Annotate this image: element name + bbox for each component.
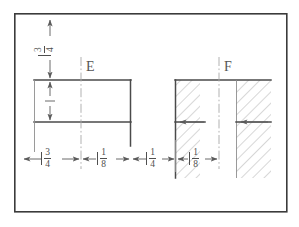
fraction-denominator: 4 bbox=[45, 46, 55, 53]
dim-tick bbox=[38, 55, 51, 56]
dimension-text-1-4: 1 4 bbox=[146, 148, 156, 169]
dim-tick bbox=[41, 152, 42, 165]
dimension-text-1-8-left: 1 8 bbox=[97, 148, 107, 169]
left-open-rectangle bbox=[34, 80, 131, 146]
fraction-denominator: 4 bbox=[44, 159, 51, 169]
technical-drawing: E F 3 4 3 4 bbox=[0, 0, 299, 227]
dim-tick bbox=[146, 152, 147, 165]
fraction-3-4-vertical: 3 4 bbox=[34, 46, 55, 53]
dim-tick bbox=[189, 152, 190, 165]
fraction-3-4: 3 4 bbox=[44, 148, 51, 169]
part-label-f: F bbox=[224, 60, 232, 74]
fraction-numerator: 3 bbox=[44, 148, 51, 158]
fraction-denominator: 4 bbox=[149, 159, 156, 169]
fraction-1-8-left: 1 8 bbox=[100, 148, 107, 169]
fraction-denominator: 8 bbox=[192, 159, 199, 169]
fraction-1-8-right: 1 8 bbox=[192, 148, 199, 169]
fraction-numerator: 1 bbox=[100, 148, 107, 158]
vertical-dimension-3-4: 3 4 bbox=[34, 46, 55, 56]
hatch-block-b bbox=[236, 80, 271, 178]
fraction-numerator: 1 bbox=[149, 148, 156, 158]
drawing-canvas bbox=[0, 0, 299, 227]
part-label-e: E bbox=[86, 60, 95, 74]
fraction-denominator: 8 bbox=[100, 159, 107, 169]
left-inner-vertical-dimension bbox=[45, 82, 55, 120]
dimension-text-3-4: 3 4 bbox=[41, 148, 51, 169]
fraction-numerator: 3 bbox=[34, 46, 44, 53]
dimension-text-1-8-right: 1 8 bbox=[189, 148, 199, 169]
fraction-1-4: 1 4 bbox=[149, 148, 156, 169]
fraction-numerator: 1 bbox=[192, 148, 199, 158]
dim-tick bbox=[97, 152, 98, 165]
